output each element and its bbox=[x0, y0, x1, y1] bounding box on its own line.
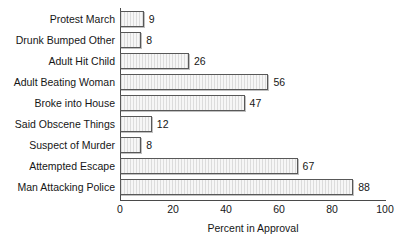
bar-row bbox=[120, 74, 268, 90]
bar-row bbox=[120, 158, 298, 174]
bar bbox=[120, 11, 144, 27]
bar-row bbox=[120, 11, 144, 27]
bar-value-label: 8 bbox=[146, 32, 152, 48]
bar-value-label: 56 bbox=[273, 74, 285, 90]
bar-row bbox=[120, 32, 141, 48]
bar-value-label: 67 bbox=[303, 158, 315, 174]
x-tick-label: 20 bbox=[153, 202, 193, 216]
bar bbox=[120, 32, 141, 48]
category-label: Drunk Bumped Other bbox=[0, 32, 115, 48]
x-tick-label: 40 bbox=[206, 202, 246, 216]
x-axis-line bbox=[120, 200, 386, 201]
bar bbox=[120, 116, 152, 132]
bar-value-label: 8 bbox=[146, 137, 152, 153]
bar-value-label: 9 bbox=[149, 11, 155, 27]
bar-row bbox=[120, 53, 189, 69]
category-label: Said Obscene Things bbox=[0, 116, 115, 132]
bar-row bbox=[120, 179, 353, 195]
category-label: Attempted Escape bbox=[0, 158, 115, 174]
x-tick-label: 100 bbox=[365, 202, 401, 216]
bar-row bbox=[120, 137, 141, 153]
bar-row bbox=[120, 95, 245, 111]
category-label: Adult Beating Woman bbox=[0, 74, 115, 90]
category-label: Broke into House bbox=[0, 95, 115, 111]
category-label: Suspect of Murder bbox=[0, 137, 115, 153]
bar bbox=[120, 179, 353, 195]
x-tick-label: 60 bbox=[259, 202, 299, 216]
x-tick-label: 0 bbox=[100, 202, 140, 216]
bar-value-label: 12 bbox=[157, 116, 169, 132]
bar-value-label: 88 bbox=[358, 179, 370, 195]
x-tick-label: 80 bbox=[312, 202, 352, 216]
bar bbox=[120, 137, 141, 153]
bar bbox=[120, 95, 245, 111]
x-axis-title: Percent in Approval bbox=[120, 222, 386, 234]
bar-chart: Protest MarchDrunk Bumped OtherAdult Hit… bbox=[0, 0, 401, 246]
bar-value-label: 47 bbox=[250, 95, 262, 111]
category-label: Adult Hit Child bbox=[0, 53, 115, 69]
category-label: Man Attacking Police bbox=[0, 179, 115, 195]
bar-row bbox=[120, 116, 152, 132]
category-label: Protest March bbox=[0, 11, 115, 27]
bar bbox=[120, 158, 298, 174]
bar bbox=[120, 74, 268, 90]
bar-value-label: 26 bbox=[194, 53, 206, 69]
bar bbox=[120, 53, 189, 69]
